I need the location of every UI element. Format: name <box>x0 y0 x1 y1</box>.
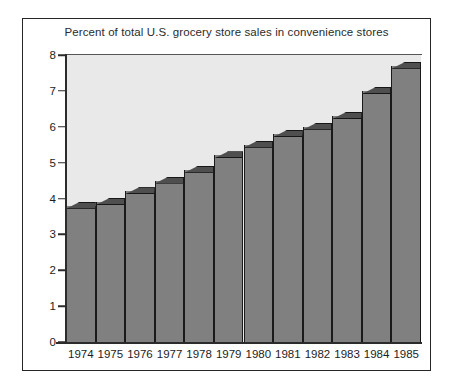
bar-front-face <box>273 134 303 342</box>
y-axis-tick-label: 4 <box>34 193 56 205</box>
figure-canvas: Percent of total U.S. grocery store sale… <box>0 0 452 389</box>
y-axis-tick-label: 6 <box>34 121 56 133</box>
bar-front-face <box>214 155 244 342</box>
bar-front-face <box>303 127 333 342</box>
y-axis-tick-mark <box>58 126 65 128</box>
x-axis-tick-label: 1985 <box>388 348 424 360</box>
bar-front-face <box>155 181 185 342</box>
bar-front-face <box>244 145 274 342</box>
bar <box>332 112 362 342</box>
plot-top-rule <box>66 54 422 55</box>
y-axis-tick-mark <box>58 270 65 272</box>
y-axis-tick-mark <box>58 90 65 92</box>
bar <box>244 141 274 342</box>
bar-front-face <box>391 66 421 342</box>
bar-front-face <box>66 206 96 342</box>
bar <box>273 130 303 342</box>
bar-front-face <box>96 202 126 342</box>
y-axis-tick-mark <box>58 341 65 343</box>
bar <box>184 166 214 342</box>
bar <box>66 202 96 342</box>
y-axis-tick-mark <box>58 198 65 200</box>
bar <box>362 87 392 342</box>
bar <box>303 123 333 342</box>
y-axis-tick-label: 7 <box>34 85 56 97</box>
y-axis-tick-label: 2 <box>34 264 56 276</box>
y-axis-tick-label: 5 <box>34 157 56 169</box>
y-axis-tick-mark <box>58 54 65 56</box>
bar-front-face <box>184 170 214 342</box>
y-axis-tick-label: 0 <box>34 336 56 348</box>
bar-front-face <box>362 91 392 342</box>
chart-title: Percent of total U.S. grocery store sale… <box>22 26 431 38</box>
bar <box>96 198 126 342</box>
bar-front-face <box>332 116 362 342</box>
bar <box>391 62 421 342</box>
y-axis-tick-label: 8 <box>34 49 56 61</box>
y-axis-tick-mark <box>58 162 65 164</box>
bar <box>125 187 155 342</box>
bar <box>214 151 244 342</box>
y-axis-line <box>65 54 67 343</box>
y-axis-tick-mark <box>58 234 65 236</box>
x-axis-line <box>56 342 422 344</box>
bar-front-face <box>125 191 155 342</box>
y-axis-tick-labels: 012345678 <box>30 0 56 389</box>
y-axis-tick-mark <box>58 305 65 307</box>
bar <box>155 177 185 342</box>
y-axis-tick-label: 3 <box>34 228 56 240</box>
y-axis-tick-label: 1 <box>34 300 56 312</box>
